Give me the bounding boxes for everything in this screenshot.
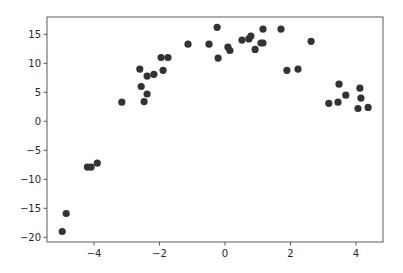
- data-point: [365, 104, 372, 111]
- x-axis-ticks: −4−2024: [87, 242, 360, 259]
- data-point: [59, 228, 66, 235]
- y-tick-label: −15: [20, 203, 41, 214]
- data-point: [184, 41, 191, 48]
- data-point: [215, 55, 222, 62]
- data-point: [277, 26, 284, 33]
- data-point: [136, 66, 143, 73]
- data-point: [164, 54, 171, 61]
- data-point: [158, 54, 165, 61]
- y-tick-label: 0: [35, 116, 41, 127]
- data-point: [144, 73, 151, 80]
- data-point: [150, 71, 157, 78]
- data-point: [138, 83, 145, 90]
- x-tick-label: 4: [353, 248, 359, 259]
- x-tick-label: 0: [222, 248, 228, 259]
- data-point: [356, 85, 363, 92]
- x-tick-label: −2: [152, 248, 167, 259]
- y-tick-label: 15: [28, 29, 41, 40]
- data-point: [94, 160, 101, 167]
- x-tick-label: −4: [87, 248, 102, 259]
- data-point: [226, 47, 233, 54]
- data-point: [63, 210, 70, 217]
- data-point: [308, 38, 315, 45]
- data-point: [144, 90, 151, 97]
- data-point: [259, 26, 266, 33]
- data-point: [334, 99, 341, 106]
- y-tick-label: −10: [20, 174, 41, 185]
- data-point: [141, 98, 148, 105]
- y-tick-label: 10: [28, 58, 41, 69]
- data-point: [252, 46, 259, 53]
- y-tick-label: −5: [26, 145, 41, 156]
- data-point: [88, 164, 95, 171]
- data-point: [335, 81, 342, 88]
- x-tick-label: 2: [287, 248, 293, 259]
- data-point: [259, 39, 266, 46]
- data-point: [205, 41, 212, 48]
- data-point: [247, 32, 254, 39]
- data-point: [325, 100, 332, 107]
- data-point: [283, 67, 290, 74]
- data-point: [354, 105, 361, 112]
- data-points: [59, 24, 372, 235]
- data-point: [118, 99, 125, 106]
- data-point: [294, 66, 301, 73]
- data-point: [238, 37, 245, 44]
- y-axis-ticks: −20−15−10−5051015: [20, 29, 47, 243]
- data-point: [357, 95, 364, 102]
- data-point: [342, 92, 349, 99]
- data-point: [214, 24, 221, 31]
- scatter-figure: −4−2024 −20−15−10−5051015: [0, 0, 403, 273]
- data-point: [160, 67, 167, 74]
- scatter-plot: −4−2024 −20−15−10−5051015: [0, 0, 403, 273]
- y-tick-label: 5: [35, 87, 41, 98]
- axes-frame: [47, 17, 383, 242]
- y-tick-label: −20: [20, 232, 41, 243]
